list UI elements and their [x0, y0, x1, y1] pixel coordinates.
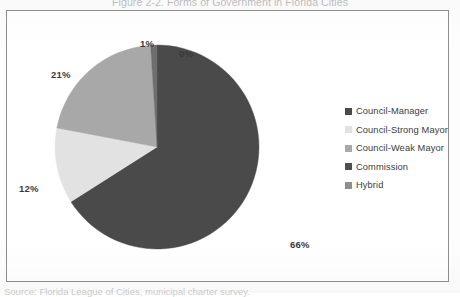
legend-item[interactable]: Council-Weak Mayor [345, 143, 448, 153]
legend-swatch-icon [345, 163, 352, 170]
legend-item-label: Council-Manager [356, 106, 428, 116]
legend-item[interactable]: Council-Strong Mayor [345, 125, 448, 135]
slice-label-council-weak-mayor: 21% [51, 69, 71, 80]
legend-item-label: Council-Strong Mayor [356, 125, 448, 135]
legend-item[interactable]: Hybrid [345, 180, 448, 190]
figure-frame: 0% 1% 21% 12% 66% Council-ManagerCouncil… [6, 10, 449, 282]
legend-item-label: Council-Weak Mayor [356, 143, 444, 153]
figure-title: Figure 2-2. Forms of Government in Flori… [0, 0, 460, 8]
legend-item-label: Commission [356, 162, 408, 172]
legend-item[interactable]: Commission [345, 162, 448, 172]
figure-caption: Source: Florida League of Cities, munici… [4, 286, 460, 297]
legend-item-label: Hybrid [356, 180, 383, 190]
legend-swatch-icon [345, 182, 352, 189]
slice-label-council-manager: 66% [290, 239, 310, 250]
slice-label-council-strong-mayor: 12% [19, 183, 39, 194]
slice-label-hybrid: 0% [179, 48, 193, 59]
legend-swatch-icon [345, 126, 352, 133]
legend-swatch-icon [345, 108, 352, 115]
chart-legend: Council-ManagerCouncil-Strong MayorCounc… [345, 106, 448, 190]
legend-swatch-icon [345, 145, 352, 152]
legend-item[interactable]: Council-Manager [345, 106, 448, 116]
slice-label-commission: 1% [140, 38, 154, 49]
pie-chart [54, 44, 260, 250]
pie-svg [54, 44, 260, 250]
